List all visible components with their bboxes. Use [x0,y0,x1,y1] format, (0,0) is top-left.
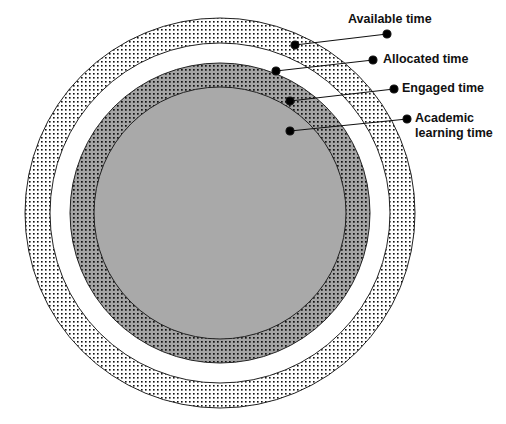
label-engaged-time: Engaged time [402,81,484,96]
engaged-inner-dot [286,97,294,105]
allocated-outer-dot [369,56,377,64]
allocated-inner-dot [272,67,280,75]
available-outer-dot [383,30,391,38]
label-available-time: Available time [348,12,432,27]
label-allocated-time: Allocated time [383,52,468,67]
academic-inner-dot [286,127,294,135]
label-academic-line1: Academic [415,111,474,126]
label-academic-line2: learning time [415,126,493,141]
engaged-outer-dot [390,85,398,93]
available-inner-dot [291,41,299,49]
academic-learning-time-circle [94,87,346,339]
academic-outer-dot [403,115,411,123]
